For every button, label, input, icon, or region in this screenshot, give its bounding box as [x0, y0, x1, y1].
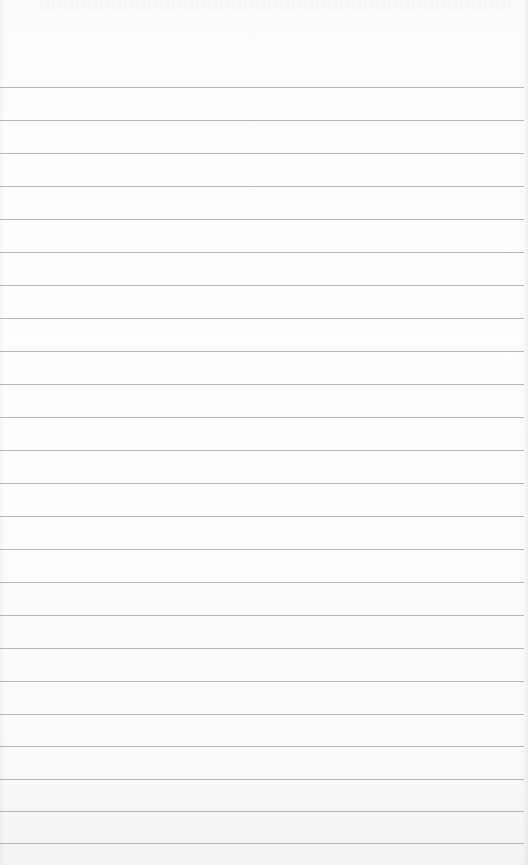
ruled-line — [0, 516, 524, 517]
ruled-line — [0, 714, 524, 715]
ruled-line — [0, 318, 524, 319]
ruled-line — [0, 779, 524, 780]
ruled-line — [0, 417, 524, 418]
ruled-line — [0, 648, 524, 649]
ruled-line — [0, 120, 524, 121]
ruled-line — [0, 252, 524, 253]
ruled-line — [0, 384, 524, 385]
bleed-through-text — [40, 0, 510, 10]
ruled-line — [0, 87, 524, 88]
ruled-line — [0, 186, 524, 187]
ruled-line — [0, 843, 524, 844]
ruled-line — [0, 549, 524, 550]
ruled-line — [0, 811, 524, 812]
ruled-line — [0, 483, 524, 484]
ruled-line — [0, 285, 524, 286]
ruled-line — [0, 153, 524, 154]
ruled-line — [0, 582, 524, 583]
notepad-page — [0, 0, 528, 865]
ruled-line — [0, 615, 524, 616]
ruled-line — [0, 351, 524, 352]
ruled-line — [0, 450, 524, 451]
ruled-line — [0, 746, 524, 747]
ruled-line — [0, 219, 524, 220]
ruled-line — [0, 681, 524, 682]
